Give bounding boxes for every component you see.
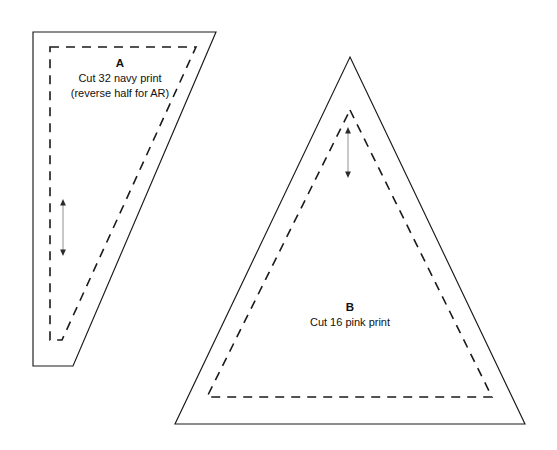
piece-b-cut-line [175, 57, 525, 424]
piece-b-grain-arrow [345, 127, 351, 178]
piece-b-instruction-line-1: Cut 16 pink print [285, 315, 415, 330]
piece-a-grain-arrow-head-down [60, 249, 66, 256]
piece-a-grain-arrow-head-up [60, 199, 66, 206]
piece-b-letter: B [285, 300, 415, 315]
piece-b-label: B Cut 16 pink print [285, 300, 415, 330]
piece-a-letter: A [60, 56, 180, 71]
piece-b-grain-arrow-head-up [345, 127, 351, 134]
piece-a-instruction-line-2: (reverse half for AR) [60, 86, 180, 101]
piece-a-label: A Cut 32 navy print (reverse half for AR… [60, 56, 180, 100]
piece-a-instruction-line-1: Cut 32 navy print [60, 71, 180, 86]
pattern-sheet: A Cut 32 navy print (reverse half for AR… [0, 0, 557, 450]
piece-b-seam-line [207, 110, 492, 397]
piece-b-group [175, 57, 525, 424]
piece-a-grain-arrow [60, 199, 66, 256]
piece-b-grain-arrow-head-down [345, 171, 351, 178]
